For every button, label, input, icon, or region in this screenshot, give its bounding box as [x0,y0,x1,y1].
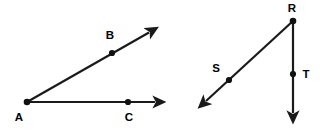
point-s-dot [226,77,232,83]
point-a-label: A [15,111,23,123]
point-b-dot [109,50,115,56]
ray-ab [27,33,149,103]
diagram-canvas: A B C R S T [0,0,326,131]
point-t-dot [290,71,296,77]
diagram-angle-srt: R S T [206,2,310,113]
geometry-figure: A B C R S T [0,0,326,131]
diagram-angle-bac: A B C [15,29,155,123]
point-t-label: T [302,68,309,80]
point-r-dot [290,18,297,25]
point-r-label: R [288,2,297,14]
point-a-dot [24,99,31,106]
point-s-label: S [212,62,220,74]
point-c-dot [125,99,131,105]
point-c-label: C [125,111,133,123]
point-b-label: B [106,29,114,41]
ray-rs [206,21,293,101]
